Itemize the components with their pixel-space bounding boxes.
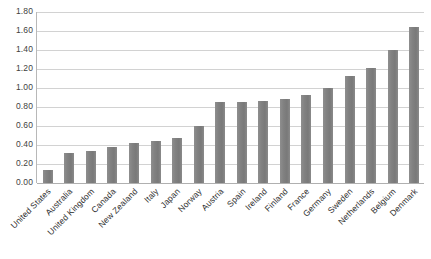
- y-axis-tick-label: 0.40: [1, 140, 33, 149]
- y-axis-tick-label: 1.20: [1, 64, 33, 73]
- y-axis-tick-label: 0.00: [1, 178, 33, 187]
- bar-slot: [360, 12, 382, 183]
- bar-slot: [188, 12, 210, 183]
- bar: [237, 102, 247, 183]
- bar: [172, 138, 182, 183]
- x-axis-tick: Austria: [208, 183, 230, 259]
- x-axis-tick: Norway: [187, 183, 209, 259]
- y-axis-tick-label: 1.60: [1, 26, 33, 35]
- bar-slot: [123, 12, 145, 183]
- x-axis-tick: New Zealand: [122, 183, 144, 259]
- x-axis-tick-labels: United StatesAustraliaUnited KingdomCana…: [36, 183, 424, 259]
- x-axis-tick: Netherlands: [359, 183, 381, 259]
- y-axis-tick-label: 1.40: [1, 45, 33, 54]
- x-axis-tick: Ireland: [252, 183, 274, 259]
- bar-slot: [382, 12, 404, 183]
- bar-slot: [37, 12, 59, 183]
- x-axis-tick: Germany: [316, 183, 338, 259]
- bar: [64, 153, 74, 183]
- bar: [215, 102, 225, 183]
- plot-area: [36, 12, 424, 183]
- bar-slot: [59, 12, 81, 183]
- bar: [280, 99, 290, 183]
- bar: [43, 170, 53, 183]
- bar-chart: 1.801.601.401.201.000.800.600.400.200.00…: [0, 0, 431, 259]
- bar: [86, 151, 96, 183]
- bar: [194, 126, 204, 183]
- bars-layer: [37, 12, 424, 183]
- bar-slot: [317, 12, 339, 183]
- y-axis-tick-labels: 1.801.601.401.201.000.800.600.400.200.00: [0, 12, 33, 183]
- bar: [323, 88, 333, 183]
- y-axis-tick-label: 0.20: [1, 159, 33, 168]
- bar-slot: [80, 12, 102, 183]
- x-axis-tick: Spain: [230, 183, 252, 259]
- y-axis-tick-label: 1.00: [1, 83, 33, 92]
- y-axis-tick-label: 1.80: [1, 7, 33, 16]
- bar-slot: [403, 12, 425, 183]
- y-axis-tick-label: 0.60: [1, 121, 33, 130]
- bar-slot: [274, 12, 296, 183]
- bar: [258, 101, 268, 183]
- bar-slot: [145, 12, 167, 183]
- bar: [345, 76, 355, 183]
- bar: [151, 141, 161, 183]
- bar-slot: [166, 12, 188, 183]
- bar: [366, 68, 376, 183]
- x-axis-tick: Belgium: [381, 183, 403, 259]
- bar-slot: [296, 12, 318, 183]
- bar-slot: [231, 12, 253, 183]
- bar-slot: [339, 12, 361, 183]
- bar: [301, 95, 311, 183]
- bar-slot: [209, 12, 231, 183]
- bar: [388, 50, 398, 183]
- x-axis-tick: Finland: [273, 183, 295, 259]
- bar: [409, 27, 419, 183]
- bar-slot: [102, 12, 124, 183]
- x-axis-tick: Japan: [165, 183, 187, 259]
- x-axis-tick: France: [295, 183, 317, 259]
- x-axis-tick: Denmark: [402, 183, 424, 259]
- bar: [129, 143, 139, 183]
- x-axis-tick: Italy: [144, 183, 166, 259]
- bar: [107, 147, 117, 183]
- y-axis-tick-label: 0.80: [1, 102, 33, 111]
- bar-slot: [253, 12, 275, 183]
